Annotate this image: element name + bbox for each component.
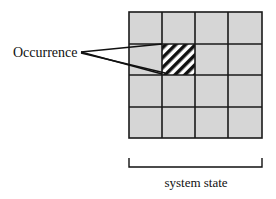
system-state-grid <box>129 12 262 138</box>
occurrence-diagram: Occurrence system state <box>0 0 276 199</box>
occurrence-cell <box>162 44 195 75</box>
occurrence-label: Occurrence <box>13 45 78 60</box>
system-state-label: system state <box>164 175 227 190</box>
system-state-bracket <box>129 158 262 167</box>
